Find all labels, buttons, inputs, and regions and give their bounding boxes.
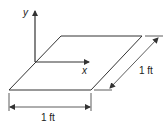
y-axis-label: y	[22, 7, 29, 18]
width-label: 1 ft	[41, 112, 55, 123]
depth-label: 1 ft	[139, 65, 153, 76]
depth-dimension-line	[110, 38, 158, 88]
square-plate	[9, 36, 142, 90]
x-axis-label: x	[81, 65, 88, 76]
plate-diagram: y x 1 ft 1 ft	[0, 0, 168, 126]
